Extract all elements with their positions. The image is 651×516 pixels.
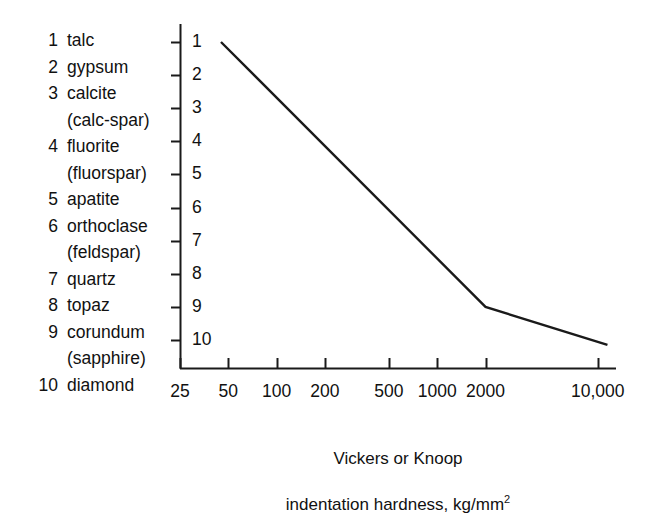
- x-axis-tick-label: 1000: [418, 383, 457, 401]
- x-axis-tick-label: 10,000: [571, 383, 625, 401]
- hardness-data-line: [221, 42, 607, 345]
- x-axis-title-line1: Vickers or Knoop: [333, 449, 462, 468]
- x-axis-tick-label: 2000: [466, 383, 505, 401]
- y-axis-tick-label: 3: [192, 99, 202, 117]
- x-axis-title-exponent: 2: [504, 493, 510, 505]
- x-axis-ticks: [181, 358, 599, 369]
- y-axis-tick-label: 1: [192, 33, 202, 51]
- x-axis-tick-label: 100: [262, 383, 291, 401]
- y-axis-tick-label: 5: [192, 166, 202, 184]
- x-axis-title: Vickers or Knoop indentation hardness, k…: [180, 424, 616, 516]
- x-axis-tick-label: 50: [219, 383, 238, 401]
- y-axis-tick-label: 6: [192, 199, 202, 217]
- x-axis-tick-label: 25: [170, 383, 189, 401]
- y-axis-tick-label: 8: [192, 265, 202, 283]
- y-axis-tick-label: 10: [192, 331, 211, 349]
- y-axis-tick-label: 4: [192, 133, 202, 151]
- y-axis-tick-label: 2: [192, 66, 202, 84]
- x-axis-tick-label: 200: [310, 383, 339, 401]
- y-axis-tick-label: 9: [192, 298, 202, 316]
- axis-lines: [180, 24, 616, 369]
- x-axis-tick-label: 500: [374, 383, 403, 401]
- y-axis-tick-label: 7: [192, 232, 202, 250]
- x-axis-title-line2: indentation hardness, kg/mm: [286, 495, 504, 514]
